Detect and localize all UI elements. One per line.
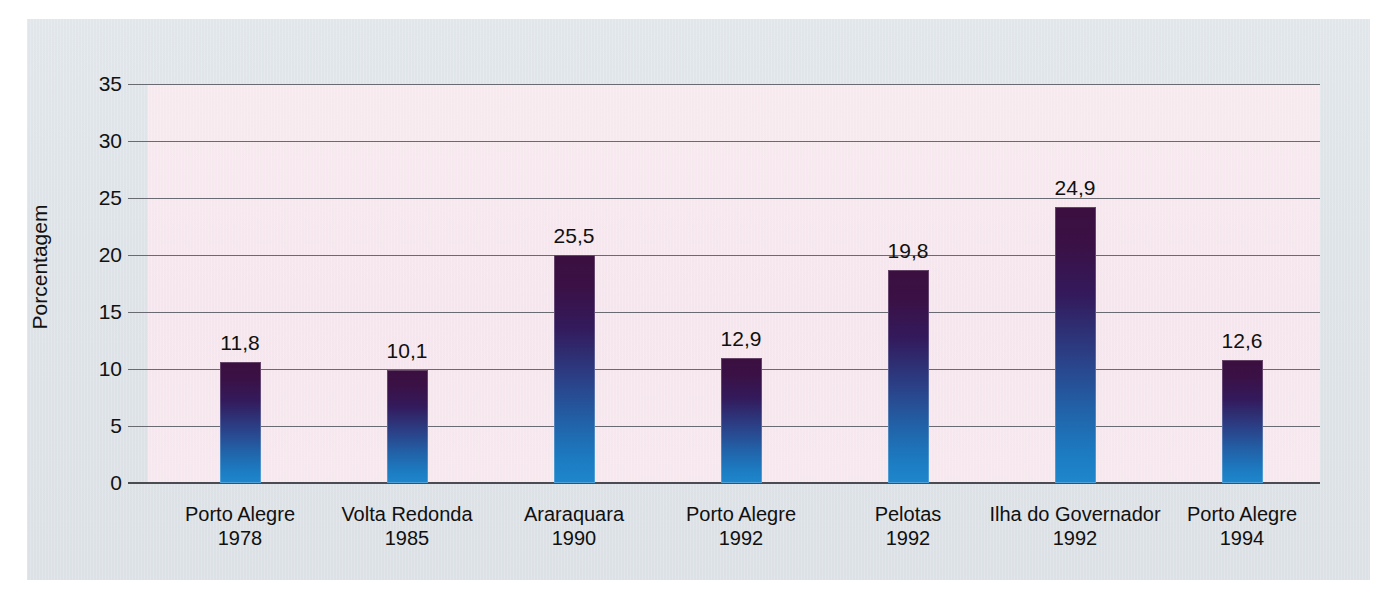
y-axis-label: Porcentagem — [28, 187, 52, 347]
bar-value-label: 12,6 — [1182, 330, 1302, 351]
bar-value-label: 19,8 — [848, 240, 968, 261]
bar-value-label: 11,8 — [180, 332, 300, 353]
bar — [1222, 360, 1263, 483]
bar — [888, 270, 929, 483]
bar — [721, 358, 762, 483]
x-label-year: 1994 — [1142, 526, 1342, 550]
y-tick-label: 15 — [78, 301, 122, 322]
y-tick-label: 35 — [78, 73, 122, 94]
bar-value-label: 25,5 — [514, 225, 634, 246]
gridline — [128, 255, 1320, 256]
y-tick-label: 30 — [78, 130, 122, 151]
bar — [554, 255, 595, 483]
bar-value-label: 12,9 — [681, 328, 801, 349]
gridline — [128, 84, 1320, 85]
x-label-place: Porto Alegre — [1142, 502, 1342, 526]
gridline — [128, 141, 1320, 142]
bar-value-label: 10,1 — [347, 340, 467, 361]
gridline — [128, 198, 1320, 199]
y-tick-label: 20 — [78, 244, 122, 265]
y-tick-label: 10 — [78, 358, 122, 379]
bar — [1055, 207, 1096, 483]
gridline — [128, 312, 1320, 313]
bar — [220, 362, 261, 483]
bar-chart-figure: 05101520253035 Porcentagem 11,810,125,51… — [0, 0, 1396, 608]
x-axis-category-label: Porto Alegre1994 — [1142, 502, 1342, 551]
y-tick-label: 0 — [78, 472, 122, 493]
bar — [387, 370, 428, 483]
bar-value-label: 24,9 — [1015, 177, 1135, 198]
y-tick-label: 25 — [78, 187, 122, 208]
y-tick-label: 5 — [78, 415, 122, 436]
